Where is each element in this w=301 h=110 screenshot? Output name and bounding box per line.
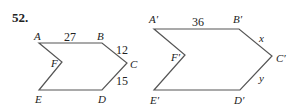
vertex-e-label: E bbox=[34, 93, 42, 105]
side-a-prime-b-prime-length: 36 bbox=[192, 15, 204, 29]
similar-figures-diagram: 52. A B C D E F 27 12 15 A′ B′ C′ D′ E′ … bbox=[0, 0, 301, 110]
vertex-a-label: A bbox=[33, 30, 41, 42]
vertex-b-label: B bbox=[97, 30, 104, 42]
vertex-d-prime-label: D′ bbox=[233, 94, 245, 106]
vertex-e-prime-label: E′ bbox=[149, 94, 160, 106]
vertex-f-label: F bbox=[50, 57, 58, 69]
side-c-prime-d-prime-length: y bbox=[258, 72, 264, 84]
figure-right: A′ B′ C′ D′ E′ F′ 36 x y bbox=[148, 13, 286, 106]
vertex-f-prime-label: F′ bbox=[170, 51, 181, 63]
vertex-a-prime-label: A′ bbox=[148, 13, 159, 25]
vertex-c-label: C bbox=[130, 58, 138, 70]
side-cd-length: 15 bbox=[116, 74, 128, 88]
vertex-b-prime-label: B′ bbox=[233, 13, 243, 25]
side-b-prime-c-prime-length: x bbox=[258, 32, 264, 44]
side-bc-length: 12 bbox=[116, 43, 128, 57]
vertex-c-prime-label: C′ bbox=[276, 52, 286, 64]
figure-left: A B C D E F 27 12 15 bbox=[33, 30, 138, 105]
vertex-d-label: D bbox=[97, 93, 106, 105]
side-ab-length: 27 bbox=[64, 30, 76, 44]
problem-number: 52. bbox=[12, 10, 28, 25]
